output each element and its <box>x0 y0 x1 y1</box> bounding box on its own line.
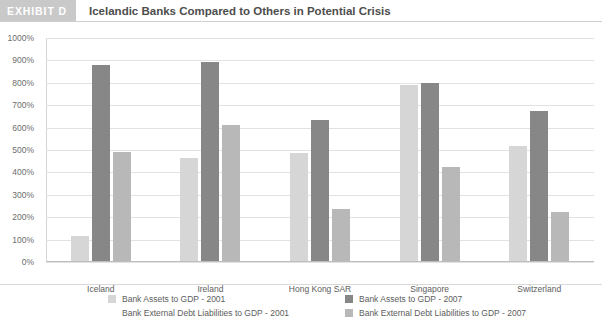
bar-group <box>484 38 594 262</box>
y-tick-label: 400% <box>0 167 34 177</box>
bar[interactable] <box>71 236 89 262</box>
bar[interactable] <box>530 111 548 262</box>
plot-area: 1000%900%800%700%600%500%400%300%200%100… <box>46 38 594 262</box>
bar[interactable] <box>400 85 418 262</box>
legend-item[interactable]: Bank Assets to GDP - 2001 <box>108 294 225 304</box>
bar[interactable] <box>551 212 569 262</box>
y-tick-label: 800% <box>0 78 34 88</box>
bar[interactable] <box>92 65 110 262</box>
legend-item[interactable]: Bank External Debt Liabilities to GDP - … <box>108 308 289 318</box>
legend-swatch-icon <box>345 295 353 303</box>
bar[interactable] <box>421 83 439 262</box>
legend-label: Bank External Debt Liabilities to GDP - … <box>359 308 526 318</box>
exhibit-badge: EXHIBIT D <box>0 0 76 21</box>
bar[interactable] <box>311 120 329 262</box>
bar-group <box>375 38 485 262</box>
y-tick-label: 300% <box>0 190 34 200</box>
bar[interactable] <box>222 125 240 262</box>
legend-label: Bank Assets to GDP - 2007 <box>359 294 462 304</box>
legend-swatch-icon <box>345 309 353 317</box>
bar[interactable] <box>290 153 308 262</box>
y-tick-label: 900% <box>0 55 34 65</box>
bar[interactable] <box>332 209 350 262</box>
bar[interactable] <box>113 152 131 262</box>
y-tick-label: 700% <box>0 100 34 110</box>
legend-label: Bank External Debt Liabilities to GDP - … <box>122 308 289 318</box>
chart-legend: Bank Assets to GDP - 2001 Bank External … <box>0 284 602 332</box>
bar-set <box>265 38 375 262</box>
bar-set <box>156 38 266 262</box>
y-tick-label: 0% <box>0 257 34 267</box>
legend-swatch-icon <box>108 295 116 303</box>
bar-set <box>484 38 594 262</box>
bar-group <box>46 38 156 262</box>
bar-group <box>156 38 266 262</box>
bar-set <box>46 38 156 262</box>
gridline <box>46 262 594 263</box>
bar[interactable] <box>180 158 198 262</box>
y-tick-label: 1000% <box>0 33 34 43</box>
exhibit-header: EXHIBIT D Icelandic Banks Compared to Ot… <box>0 0 602 22</box>
chart-area: 1000%900%800%700%600%500%400%300%200%100… <box>0 22 602 284</box>
bar[interactable] <box>201 62 219 262</box>
bar-set <box>375 38 485 262</box>
bar-groups <box>46 38 594 262</box>
bar[interactable] <box>509 146 527 262</box>
bar[interactable] <box>442 167 460 262</box>
legend-label: Bank Assets to GDP - 2001 <box>122 294 225 304</box>
y-tick-label: 600% <box>0 123 34 133</box>
page-title: Icelandic Banks Compared to Others in Po… <box>89 5 391 17</box>
x-axis-line <box>46 261 594 262</box>
bar-group <box>265 38 375 262</box>
legend-item[interactable]: Bank Assets to GDP - 2007 <box>345 294 462 304</box>
y-tick-label: 500% <box>0 145 34 155</box>
y-tick-label: 200% <box>0 212 34 222</box>
legend-item[interactable]: Bank External Debt Liabilities to GDP - … <box>345 308 526 318</box>
y-tick-label: 100% <box>0 235 34 245</box>
